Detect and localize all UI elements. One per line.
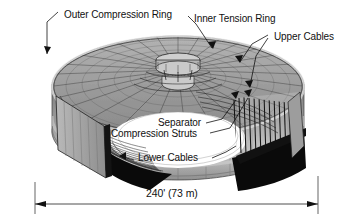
label-upper-cables: Upper Cables <box>274 31 334 42</box>
label-span-dimension: 240' (73 m) <box>146 188 198 199</box>
diagram-canvas: Outer Compression Ring Inner Tension Rin… <box>0 0 357 223</box>
label-outer-compression-ring: Outer Compression Ring <box>64 9 172 20</box>
label-lower-cables: Lower Cables <box>138 152 198 163</box>
label-separator: Separator <box>158 117 201 128</box>
label-inner-tension-ring: Inner Tension Ring <box>194 13 275 24</box>
label-compression-struts: Compression Struts <box>111 128 197 139</box>
